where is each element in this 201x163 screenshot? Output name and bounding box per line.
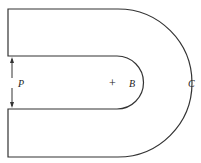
label-p: P [17,78,24,89]
force-arrow-up [10,57,14,78]
force-arrow-down [10,88,14,108]
outer-boundary [8,9,192,157]
label-b: B [129,78,135,89]
label-c: C [188,78,195,89]
center-mark: + [109,76,116,90]
horseshoe-diagram: P + B C [0,0,201,163]
